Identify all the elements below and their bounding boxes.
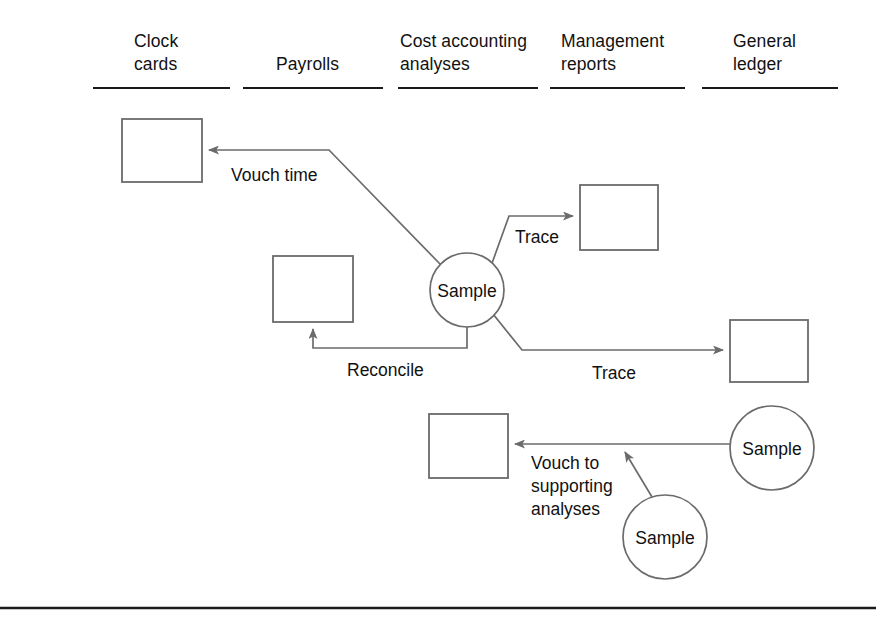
box-payroll — [273, 256, 353, 322]
box-clock-card — [122, 119, 202, 182]
column-heading-cost-accounting-analyses: Cost accounting analyses — [400, 30, 527, 76]
column-heading-payrolls: Payrolls — [276, 53, 339, 76]
edge-vouch-time-label: Vouch time — [231, 164, 318, 187]
sample-main-label: Sample — [437, 280, 496, 302]
column-heading-management-reports: Management reports — [561, 30, 664, 76]
column-heading-general-ledger: General ledger — [733, 30, 796, 76]
edge-sample-to-vouch-line — [625, 452, 652, 497]
edge-trace-management-reports-label: Trace — [515, 226, 559, 249]
edge-trace-general-ledger-label: Trace — [592, 362, 636, 385]
diagram-vector-layer — [0, 0, 876, 636]
sample-management-report-label: Sample — [635, 527, 694, 549]
box-management-report — [580, 185, 658, 250]
edge-reconcile-label: Reconcile — [347, 359, 424, 382]
column-heading-clock-cards: Clock cards — [134, 30, 178, 76]
box-cost-analysis — [429, 414, 508, 478]
edge-trace-general-ledger — [493, 314, 723, 350]
box-general-ledger — [730, 320, 808, 382]
sample-general-ledger-label: Sample — [742, 438, 801, 460]
edge-reconcile — [313, 327, 467, 348]
edge-vouch-to-supporting-analyses-label: Vouch to supporting analyses — [531, 452, 613, 521]
diagram-canvas: Clock cardsPayrollsCost accounting analy… — [0, 0, 876, 636]
